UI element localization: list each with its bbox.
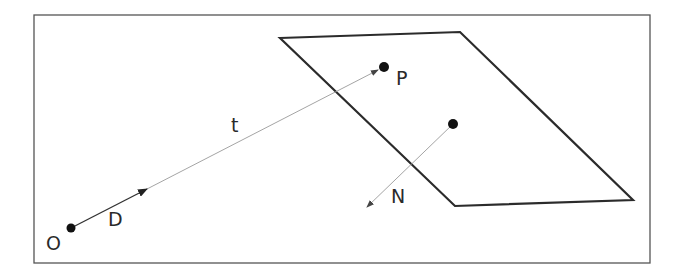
origin-point (67, 224, 76, 233)
distance-label: t (231, 114, 238, 136)
origin-label: O (46, 232, 61, 254)
intersection-point (379, 62, 389, 72)
normal-base-point (448, 119, 458, 129)
intersection-label: P (396, 67, 407, 89)
direction-label: D (108, 208, 123, 230)
normal-label: N (391, 185, 405, 207)
ray-plane-diagram: O D t P N (0, 0, 680, 277)
diagram-frame (34, 15, 650, 263)
